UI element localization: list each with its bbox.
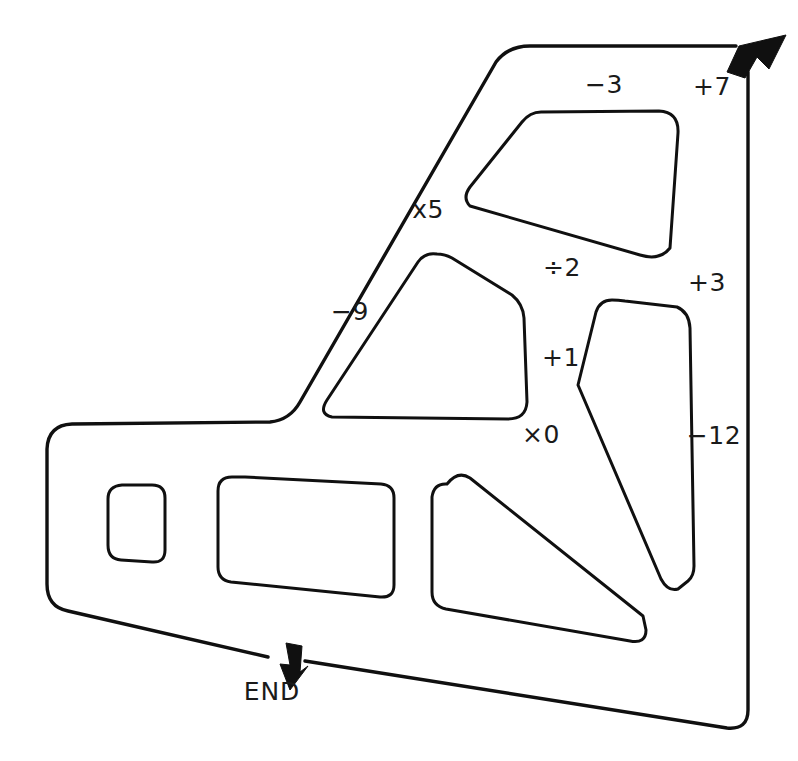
maze-diagram: −3 +7 x5 ÷2 +3 −9 +1 ×0 −12 END [0, 0, 798, 761]
start-arrow [727, 35, 786, 78]
outer-boundary-left [47, 46, 736, 657]
op-label-divide-2: ÷2 [543, 253, 581, 282]
op-label-plus-1: +1 [542, 343, 580, 372]
inner-wall-small-rect [108, 485, 165, 562]
inner-wall-mid-quad [323, 254, 527, 419]
inner-wall-right-slab [578, 300, 694, 590]
op-label-times-0: ×0 [522, 420, 560, 449]
op-label-plus-7: +7 [693, 72, 731, 101]
op-label-minus-9: −9 [331, 297, 369, 326]
end-label: END [244, 677, 301, 706]
op-label-minus-3: −3 [585, 70, 623, 99]
op-label-plus-3: +3 [688, 268, 726, 297]
op-label-times-5: x5 [412, 195, 444, 224]
inner-wall-bottom-rect [218, 477, 394, 597]
inner-wall-bottom-triangle [432, 475, 646, 641]
inner-wall-top-quad [466, 111, 678, 257]
op-label-minus-12: −12 [687, 421, 741, 450]
